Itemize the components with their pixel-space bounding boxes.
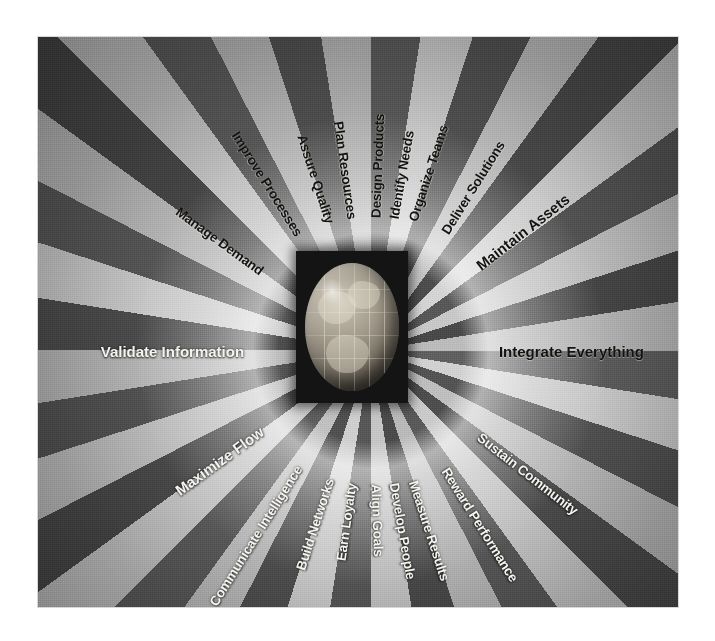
spoke-label-design-products[interactable]: Design Products — [368, 113, 387, 218]
spoke-label-validate-information[interactable]: Validate Information — [101, 343, 244, 360]
spoke-label-align-goals[interactable]: Align Goals — [368, 484, 386, 557]
globe-icon — [305, 263, 399, 391]
center-dark-square — [296, 251, 408, 403]
page-root: Deliver SolutionsOrganize TeamsIdentify … — [0, 0, 715, 641]
spoke-label-integrate-everything[interactable]: Integrate Everything — [499, 343, 644, 360]
radial-diagram-panel: Deliver SolutionsOrganize TeamsIdentify … — [38, 37, 678, 607]
